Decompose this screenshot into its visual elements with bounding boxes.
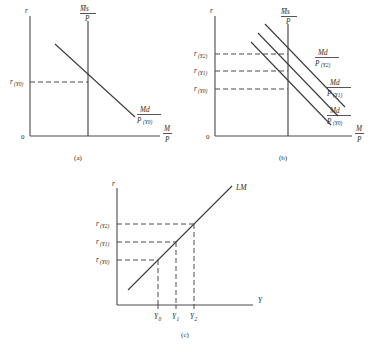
figure-lm-derivation: r 0 M P M̄s P Md P (Y0) r xyxy=(0,0,390,353)
panel-b-y-tick-1: r (Y1) xyxy=(194,67,207,77)
panel-b-supply-label-num: M̄s xyxy=(280,8,290,16)
panel-b-demand-label-y2-num: Md xyxy=(317,49,328,57)
panel-b-supply-label: M̄s P xyxy=(280,8,297,26)
panel-c-y-tick-2-sub: (Y2) xyxy=(100,223,109,230)
panel-a-demand-label-num: Md xyxy=(139,106,150,114)
panel-b-y-tick-0: r (Y0) xyxy=(194,85,207,95)
panel-b-x-axis-label-den: P xyxy=(356,136,362,144)
panel-b: r 0 M P M̄s P Md P (Y2) Md xyxy=(194,7,364,162)
panel-c-x-tick-label-1-sub: 1 xyxy=(177,316,180,322)
panel-c-x-tick-label-0: Y 0 xyxy=(154,313,162,322)
panel-b-y-tick-1-main: r xyxy=(194,67,197,75)
panel-c-y-tick-0-main: r xyxy=(96,256,99,264)
panel-c-y-tick-1-main: r xyxy=(96,238,99,246)
panel-a: r 0 M P M̄s P Md P (Y0) r xyxy=(10,5,172,162)
panel-a-y-tick-0-sub: (Y0) xyxy=(14,81,23,88)
panel-c-lm-label: LM xyxy=(235,183,247,192)
panel-a-x-axis-label-den: P xyxy=(164,136,170,144)
panel-a-supply-label-den: P xyxy=(84,15,90,23)
panel-b-supply-label-den: P xyxy=(285,18,291,26)
panel-b-x-axis-label-num: M xyxy=(355,125,363,133)
panel-c-y-tick-1-sub: (Y1) xyxy=(100,241,109,248)
panel-a-demand-label: Md P (Y0) xyxy=(136,106,161,126)
panel-a-supply-label: M̄s P xyxy=(79,5,96,23)
panel-a-x-axis-label-num: M xyxy=(163,125,171,133)
panel-b-y-tick-0-main: r xyxy=(194,85,197,93)
panel-c-lm-curve xyxy=(128,186,232,290)
panel-b-demand-label-y0-num: Md xyxy=(329,107,340,115)
panel-b-y-tick-1-sub: (Y1) xyxy=(198,70,207,77)
panel-b-demand-label-y2-sub: (Y2) xyxy=(321,62,330,69)
panel-a-y-axis-label: r xyxy=(25,7,28,15)
panel-c-y-tick-2-main: r xyxy=(96,220,99,228)
panel-b-x-axis-label: M P xyxy=(355,125,364,144)
panel-b-demand-label-y0: Md P (Y0) xyxy=(326,107,351,127)
panel-c-y-tick-2: r (Y2) xyxy=(96,220,109,230)
panel-b-y-axis-label: r xyxy=(210,7,213,15)
panel-c-y-tick-0: r (Y0) xyxy=(96,256,109,266)
panel-b-demand-label-y2: Md P (Y2) xyxy=(314,49,339,69)
panel-a-money-demand-curve xyxy=(55,44,135,117)
panel-b-demand-label-y0-sub: (Y0) xyxy=(333,120,342,127)
panel-a-y-tick-0: r (Y0) xyxy=(10,78,23,88)
panel-b-origin-label: 0 xyxy=(206,133,210,141)
panel-c-y-axis-label: r xyxy=(112,180,115,188)
panel-c-x-tick-label-2: Y 2 xyxy=(190,313,198,322)
panel-b-y-tick-2-main: r xyxy=(194,50,197,58)
panel-a-demand-label-sub: (Y0) xyxy=(143,119,152,126)
panel-c-caption: (c) xyxy=(181,331,189,339)
panel-c-x-tick-label-1: Y 1 xyxy=(172,313,180,322)
panel-b-money-demand-curve-y1 xyxy=(258,33,338,116)
panel-b-demand-label-y2-den: P xyxy=(314,60,320,68)
panel-c-y-tick-0-sub: (Y0) xyxy=(100,259,109,266)
panel-b-demand-label-y1-sub: (Y1) xyxy=(333,92,342,99)
panel-c: r Y LM r (Y2) r (Y1) r (Y0) xyxy=(96,180,263,339)
panel-a-caption: (a) xyxy=(74,154,82,162)
panel-b-demand-label-y1: Md P (Y1) xyxy=(326,79,351,99)
panel-b-demand-label-y1-num: Md xyxy=(329,79,340,87)
panel-c-x-tick-label-0-sub: 0 xyxy=(159,316,162,322)
panel-b-y-tick-2-sub: (Y2) xyxy=(198,53,207,60)
panel-a-x-axis-label: M P xyxy=(163,125,172,144)
panel-b-demand-label-y0-den: P xyxy=(326,118,332,126)
panel-b-y-tick-2: r (Y2) xyxy=(194,50,207,60)
panel-b-demand-label-y1-den: P xyxy=(326,90,332,98)
panel-a-origin-label: 0 xyxy=(21,133,25,141)
panel-c-x-axis-label: Y xyxy=(258,297,263,305)
panel-a-demand-label-den: P xyxy=(136,117,142,125)
panel-a-y-tick-0-main: r xyxy=(10,78,13,86)
panel-a-supply-label-num: M̄s xyxy=(79,5,89,13)
panel-c-y-tick-1: r (Y1) xyxy=(96,238,109,248)
panel-b-caption: (b) xyxy=(279,154,288,162)
panel-b-y-tick-0-sub: (Y0) xyxy=(198,88,207,95)
panel-c-x-tick-label-2-sub: 2 xyxy=(195,316,198,322)
